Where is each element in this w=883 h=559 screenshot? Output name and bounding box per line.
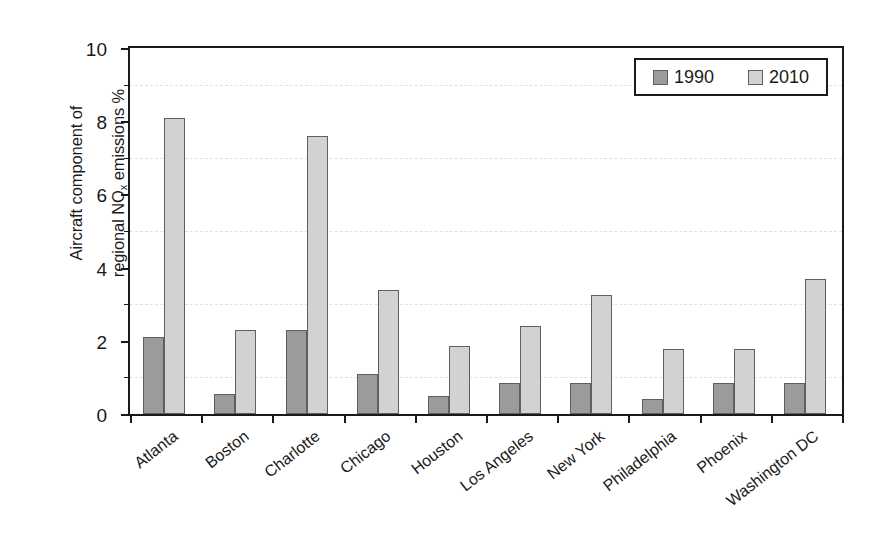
x-axis-tick-label: New York xyxy=(544,427,608,483)
legend-label-2010: 2010 xyxy=(769,68,809,86)
y-axis-tick-label: 10 xyxy=(86,39,107,61)
bar-2010 xyxy=(307,136,328,414)
y-axis-tick: 0 xyxy=(121,414,130,416)
bar-2010 xyxy=(235,330,256,414)
y-axis-minor-tick xyxy=(124,231,130,232)
y-axis-tick-label: 8 xyxy=(96,112,107,134)
y-axis-tick-label: 6 xyxy=(96,185,107,207)
bar-1990 xyxy=(499,383,520,414)
gridline xyxy=(130,304,842,305)
bar-chart-figure: Aircraft component of regional NOx emiss… xyxy=(0,0,883,559)
y-axis-title-line1: Aircraft component of xyxy=(67,106,85,261)
bar-2010 xyxy=(663,349,684,414)
x-axis-tick xyxy=(557,414,559,423)
y-axis-tick: 8 xyxy=(121,121,130,123)
x-axis-tick-label: Charlotte xyxy=(261,427,323,481)
y-axis-tick: 10 xyxy=(121,48,130,50)
x-axis-tick xyxy=(771,414,773,423)
legend: 1990 2010 xyxy=(634,58,828,96)
x-axis-tick-label: Houston xyxy=(408,427,466,478)
y-axis-tick: 6 xyxy=(121,194,130,196)
x-axis-tick xyxy=(415,414,417,423)
x-axis-tick-label: Phoenix xyxy=(694,427,751,477)
y-axis-tick-label: 0 xyxy=(96,405,107,427)
x-axis-tick-label: Chicago xyxy=(337,427,394,477)
y-axis-title-line2-pre: regional NO xyxy=(109,190,127,277)
bar-1990 xyxy=(214,394,235,414)
bar-1990 xyxy=(143,337,164,414)
x-axis-tick-label: Philadelphia xyxy=(600,427,680,495)
x-axis-tick-label: Atlanta xyxy=(131,427,181,472)
x-axis-tick xyxy=(700,414,702,423)
bar-1990 xyxy=(784,383,805,414)
bar-1990 xyxy=(713,383,734,414)
y-axis-title-line2-post: emissions % xyxy=(109,89,127,185)
bar-2010 xyxy=(734,349,755,414)
bar-2010 xyxy=(591,295,612,414)
bar-1990 xyxy=(570,383,591,414)
gridline xyxy=(130,158,842,159)
y-axis-tick-label: 2 xyxy=(96,332,107,354)
x-axis-tick-label: Los Angeles xyxy=(457,427,537,495)
legend-swatch-2010 xyxy=(748,70,763,85)
x-axis-tick xyxy=(842,414,844,423)
legend-label-1990: 1990 xyxy=(674,68,714,86)
y-axis-tick-label: 4 xyxy=(96,259,107,281)
y-axis-tick: 4 xyxy=(121,268,130,270)
x-axis-tick xyxy=(201,414,203,423)
bar-1990 xyxy=(286,330,307,414)
bar-2010 xyxy=(520,326,541,414)
gridline xyxy=(130,231,842,232)
bar-2010 xyxy=(164,118,185,414)
plot-area: 0246810 xyxy=(128,46,844,416)
x-axis-tick xyxy=(130,414,132,423)
legend-entry-2010: 2010 xyxy=(748,68,809,86)
x-axis-tick xyxy=(486,414,488,423)
y-axis-minor-tick xyxy=(124,85,130,86)
bar-2010 xyxy=(449,346,470,414)
x-axis-tick xyxy=(344,414,346,423)
legend-swatch-1990 xyxy=(653,70,668,85)
bar-1990 xyxy=(428,396,449,414)
bar-2010 xyxy=(378,290,399,414)
bar-2010 xyxy=(805,279,826,414)
y-axis-minor-tick xyxy=(124,304,130,305)
x-axis-tick xyxy=(628,414,630,423)
bar-1990 xyxy=(642,399,663,414)
y-axis-tick: 2 xyxy=(121,341,130,343)
x-axis-tick-label: Boston xyxy=(202,427,252,472)
legend-entry-1990: 1990 xyxy=(653,68,714,86)
y-axis-minor-tick xyxy=(124,158,130,159)
y-axis-minor-tick xyxy=(124,377,130,378)
x-axis-tick xyxy=(272,414,274,423)
bar-1990 xyxy=(357,374,378,414)
